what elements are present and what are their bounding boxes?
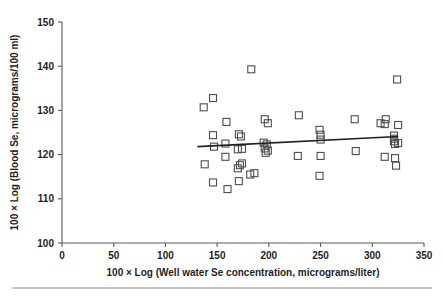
data-point-marker bbox=[248, 66, 255, 73]
x-tick-label: 0 bbox=[59, 250, 65, 261]
data-point-marker bbox=[210, 95, 217, 102]
data-point-marker bbox=[234, 146, 241, 153]
data-point-marker bbox=[351, 116, 358, 123]
data-point-marker bbox=[223, 118, 230, 125]
data-point-marker bbox=[238, 160, 245, 167]
data-point-marker bbox=[294, 152, 301, 159]
data-point-marker bbox=[395, 121, 402, 128]
figure-container: 1001101201301401500501001502002503003501… bbox=[0, 0, 444, 296]
data-point-marker bbox=[393, 162, 400, 169]
y-tick-label: 120 bbox=[37, 149, 54, 160]
y-tick-label: 150 bbox=[37, 17, 54, 28]
x-axis-title: 100 × Log (Well water Se concentration, … bbox=[107, 267, 380, 278]
data-point-marker bbox=[210, 179, 217, 186]
y-tick-label: 100 bbox=[37, 238, 54, 249]
data-point-marker bbox=[381, 153, 388, 160]
x-tick-label: 200 bbox=[261, 250, 278, 261]
data-point-marker bbox=[238, 145, 245, 152]
regression-line bbox=[197, 136, 398, 146]
data-point-marker bbox=[200, 104, 207, 111]
data-point-marker bbox=[235, 131, 242, 138]
data-point-marker bbox=[222, 153, 229, 160]
x-tick-label: 150 bbox=[209, 250, 226, 261]
data-point-marker bbox=[392, 155, 399, 162]
x-tick-label: 250 bbox=[312, 250, 329, 261]
data-point-marker bbox=[352, 148, 359, 155]
y-tick-label: 110 bbox=[38, 193, 55, 204]
data-point-marker bbox=[224, 186, 231, 193]
data-point-marker bbox=[235, 178, 242, 185]
x-tick-label: 50 bbox=[108, 250, 120, 261]
data-point-marker bbox=[316, 172, 323, 179]
y-axis-title: 100 × Log (Blood Se, micrograms/100 ml) bbox=[9, 35, 20, 231]
scatter-plot: 1001101201301401500501001502002503003501… bbox=[0, 0, 444, 296]
y-tick-label: 130 bbox=[37, 105, 54, 116]
data-point-marker bbox=[237, 133, 244, 140]
data-point-marker bbox=[394, 76, 401, 83]
data-point-marker bbox=[295, 112, 302, 119]
data-point-marker bbox=[317, 152, 324, 159]
x-tick-label: 350 bbox=[416, 250, 433, 261]
data-point-marker bbox=[201, 161, 208, 168]
x-tick-label: 300 bbox=[364, 250, 381, 261]
data-point-marker bbox=[210, 132, 217, 139]
x-tick-label: 100 bbox=[157, 250, 174, 261]
y-tick-label: 140 bbox=[37, 61, 54, 72]
